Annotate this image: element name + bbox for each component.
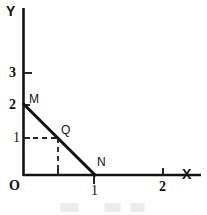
- point-label-q: Q: [61, 124, 70, 136]
- segment-mn: [24, 104, 96, 175]
- figure-canvas: Y X 3 2 1 1 2 O M Q N: [0, 0, 207, 215]
- x-axis-label: X: [182, 167, 191, 181]
- coordinate-plot: [0, 0, 207, 215]
- caption-smudge: [52, 203, 157, 212]
- y-axis-label: Y: [6, 4, 15, 18]
- point-label-m: M: [29, 93, 39, 105]
- y-tick-label-1: 1: [13, 131, 20, 145]
- point-label-n: N: [97, 156, 106, 168]
- x-tick-label-1: 1: [91, 184, 98, 198]
- y-tick-label-2: 2: [9, 98, 16, 112]
- y-tick-label-3: 3: [9, 66, 16, 80]
- origin-label: O: [9, 179, 20, 193]
- x-tick-label-2: 2: [159, 180, 166, 194]
